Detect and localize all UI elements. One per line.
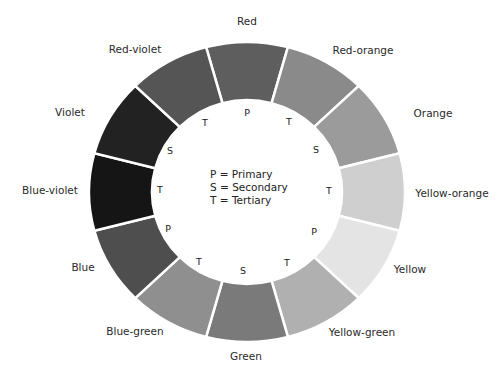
- legend-secondary: S = Secondary: [210, 181, 288, 194]
- segment-label-red: Red: [237, 15, 257, 27]
- segment-type-blue-green: T: [196, 256, 202, 267]
- legend-tertiary: T = Tertiary: [210, 194, 288, 207]
- segment-label-blue-green: Blue-green: [106, 325, 163, 337]
- segment-label-red-violet: Red-violet: [109, 43, 162, 55]
- segment-type-green: S: [240, 265, 246, 276]
- segment-label-yellow-orange: Yellow-orange: [415, 187, 488, 199]
- segment-type-red-orange: T: [286, 116, 292, 127]
- segment-type-yellow: P: [311, 226, 317, 237]
- segment-label-green: Green: [230, 350, 262, 362]
- segment-type-yellow-green: T: [284, 257, 290, 268]
- segment-label-blue-violet: Blue-violet: [22, 184, 78, 196]
- segment-label-red-orange: Red-orange: [333, 44, 394, 56]
- segment-type-blue: P: [165, 223, 171, 234]
- segment-label-yellow: Yellow: [394, 263, 426, 275]
- segment-label-violet: Violet: [55, 106, 85, 118]
- segment-type-red-violet: T: [202, 117, 208, 128]
- segment-type-violet: S: [167, 145, 173, 156]
- legend-primary: P = Primary: [210, 168, 288, 181]
- segment-type-orange: S: [313, 144, 319, 155]
- segment-type-red: P: [244, 107, 250, 118]
- segment-type-blue-violet: T: [157, 184, 163, 195]
- segment-label-orange: Orange: [414, 107, 453, 119]
- segment-type-yellow-orange: T: [326, 185, 332, 196]
- segment-label-blue: Blue: [71, 261, 94, 273]
- segment-label-yellow-green: Yellow-green: [329, 326, 395, 338]
- legend: P = Primary S = Secondary T = Tertiary: [210, 168, 288, 207]
